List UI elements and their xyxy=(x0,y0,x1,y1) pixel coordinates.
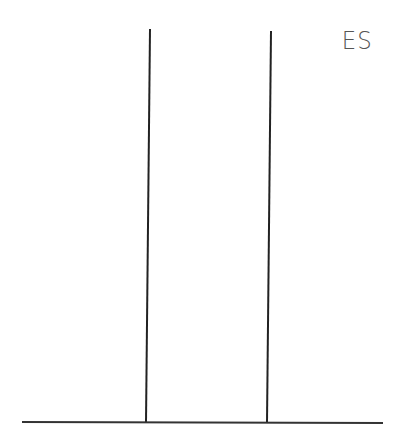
vertical-line-left xyxy=(146,29,150,422)
baseline xyxy=(22,422,383,423)
corner-label: ES xyxy=(342,27,373,55)
sketch-canvas xyxy=(0,0,396,425)
vertical-line-right xyxy=(267,31,271,422)
